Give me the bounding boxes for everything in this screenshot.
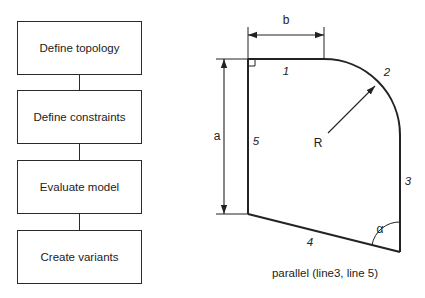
right-angle-icon [248,59,255,66]
constraint-sketch: b a R α 1 2 3 4 5 parallel (line3, line … [0,0,425,298]
line-4-label: 4 [307,236,313,248]
line-1-label: 1 [283,65,289,77]
radius-arrow [328,86,375,133]
line-2-label: 2 [383,66,391,78]
line-5-label: 5 [253,135,260,147]
constraint-caption: parallel (line3, line 5) [272,267,378,279]
line-3-label: 3 [405,175,412,187]
extension-lines [216,27,324,214]
angle-alpha-label: α [377,222,384,236]
dimension-b-label: b [283,13,290,27]
radius-label: R [314,136,323,150]
dimension-a-label: a [214,129,221,143]
